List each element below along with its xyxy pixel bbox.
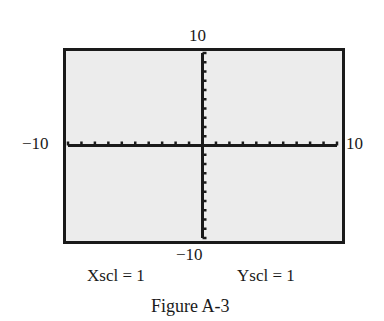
xscl-label: Xscl = 1 (87, 267, 145, 284)
xmin-label: −10 (22, 135, 49, 152)
ymin-label: −10 (176, 246, 203, 263)
xmax-label: 10 (346, 135, 363, 152)
axes (0, 0, 384, 321)
ymax-label: 10 (189, 27, 206, 44)
figure-caption: Figure A-3 (151, 297, 230, 315)
yscl-label: Yscl = 1 (237, 267, 295, 284)
